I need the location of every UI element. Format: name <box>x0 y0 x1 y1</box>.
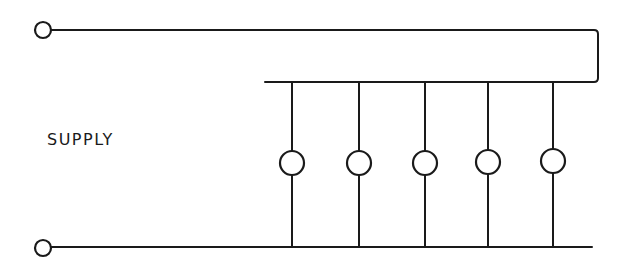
lamps <box>280 82 565 247</box>
terminal-bottom-icon <box>35 240 51 256</box>
supply-label: SUPPLY <box>47 131 114 149</box>
lamp-icon <box>541 149 565 173</box>
lamp-icon <box>476 150 500 174</box>
lamp-branch <box>280 82 304 247</box>
lamp-icon <box>347 151 371 175</box>
top-supply-wire <box>51 30 598 82</box>
lamp-branch <box>413 82 437 247</box>
lamp-icon <box>413 151 437 175</box>
lamp-branch <box>347 82 371 247</box>
lamp-branch <box>541 82 565 247</box>
wires <box>51 30 598 247</box>
lamp-icon <box>280 151 304 175</box>
lamp-branch <box>476 82 500 247</box>
terminal-top-icon <box>35 22 51 38</box>
